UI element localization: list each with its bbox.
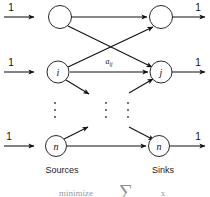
vertical-ellipsis-group (54, 102, 129, 118)
objective-formula-clipped: minimize ∑ x (59, 180, 166, 197)
row-bottom: n n (4, 127, 205, 157)
formula-minimize-word: minimize (59, 188, 93, 197)
diagram-canvas: i j aij (0, 0, 210, 197)
edge-cost-subscript: ij (109, 61, 113, 67)
caption-sinks: Sinks (152, 165, 175, 175)
sink-node-n-label: n (157, 141, 162, 152)
formula-summation-icon: ∑ (119, 180, 133, 197)
outflow-label-middle: 1 (195, 57, 201, 68)
ellipsis-center (105, 102, 107, 118)
edge-bottom-source-outgoing-diagonal (62, 127, 88, 140)
ellipsis-left (54, 102, 56, 118)
caption-sources: Sources (45, 165, 79, 175)
edge-cost-label: aij (105, 57, 113, 67)
inflow-label-bottom: 1 (6, 131, 12, 142)
source-node-i-label: i (57, 67, 60, 78)
sink-node-1 (150, 6, 173, 29)
row-top (4, 6, 205, 29)
outflow-label-bottom: 1 (195, 131, 201, 142)
row-middle: i j aij (4, 57, 205, 94)
network-flow-figure: i j aij (0, 0, 210, 197)
edge-middle-source-outgoing-diagonal (66, 80, 89, 94)
captions: Sources Sinks (45, 165, 174, 175)
ellipsis-right (127, 102, 129, 118)
source-node-1 (49, 6, 72, 29)
outflow-label-top: 1 (195, 2, 201, 13)
inflow-label-top: 1 (8, 2, 14, 13)
edge-incoming-diagonal-to-bottom-sink (129, 127, 154, 140)
inflow-label-middle: 1 (8, 57, 14, 68)
formula-tail-term: x (161, 188, 166, 197)
source-node-n-label: n (54, 141, 59, 152)
edge-incoming-diagonal-to-middle-sink (129, 79, 153, 93)
